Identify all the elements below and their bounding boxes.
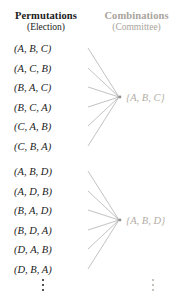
permutation-item: (D, A, B) bbox=[14, 245, 86, 256]
combination-item: {A, B, D} bbox=[126, 216, 181, 227]
permutation-item: (A, B, D) bbox=[14, 167, 86, 178]
permutation-item: (D, B, A) bbox=[14, 265, 86, 276]
permutation-item: (A, D, B) bbox=[14, 187, 86, 198]
permutation-item: (B, D, A) bbox=[14, 226, 86, 237]
permutation-item: (A, B, C) bbox=[14, 44, 86, 55]
ellipsis-dot bbox=[42, 279, 44, 281]
figure-canvas: Permutations (Election) Combinations (Co… bbox=[0, 0, 181, 305]
connector-group-2 bbox=[88, 171, 121, 269]
permutation-item: (B, A, C) bbox=[14, 83, 86, 94]
ellipsis-dot bbox=[42, 289, 44, 291]
ellipsis-dot bbox=[152, 279, 154, 281]
permutation-item: (A, C, B) bbox=[14, 64, 86, 75]
ellipsis-dot bbox=[152, 289, 154, 291]
permutation-item: (C, A, B) bbox=[14, 122, 86, 133]
ellipsis-dot bbox=[152, 284, 154, 286]
combinations-ellipsis bbox=[148, 276, 158, 291]
combination-item: {A, B, C} bbox=[126, 93, 181, 104]
permutation-item: (B, C, A) bbox=[14, 103, 86, 114]
connector-group-1 bbox=[88, 48, 121, 146]
permutations-ellipsis bbox=[38, 276, 48, 291]
ellipsis-dot bbox=[42, 284, 44, 286]
permutation-item: (B, A, D) bbox=[14, 206, 86, 217]
permutation-item: (C, B, A) bbox=[14, 142, 86, 153]
